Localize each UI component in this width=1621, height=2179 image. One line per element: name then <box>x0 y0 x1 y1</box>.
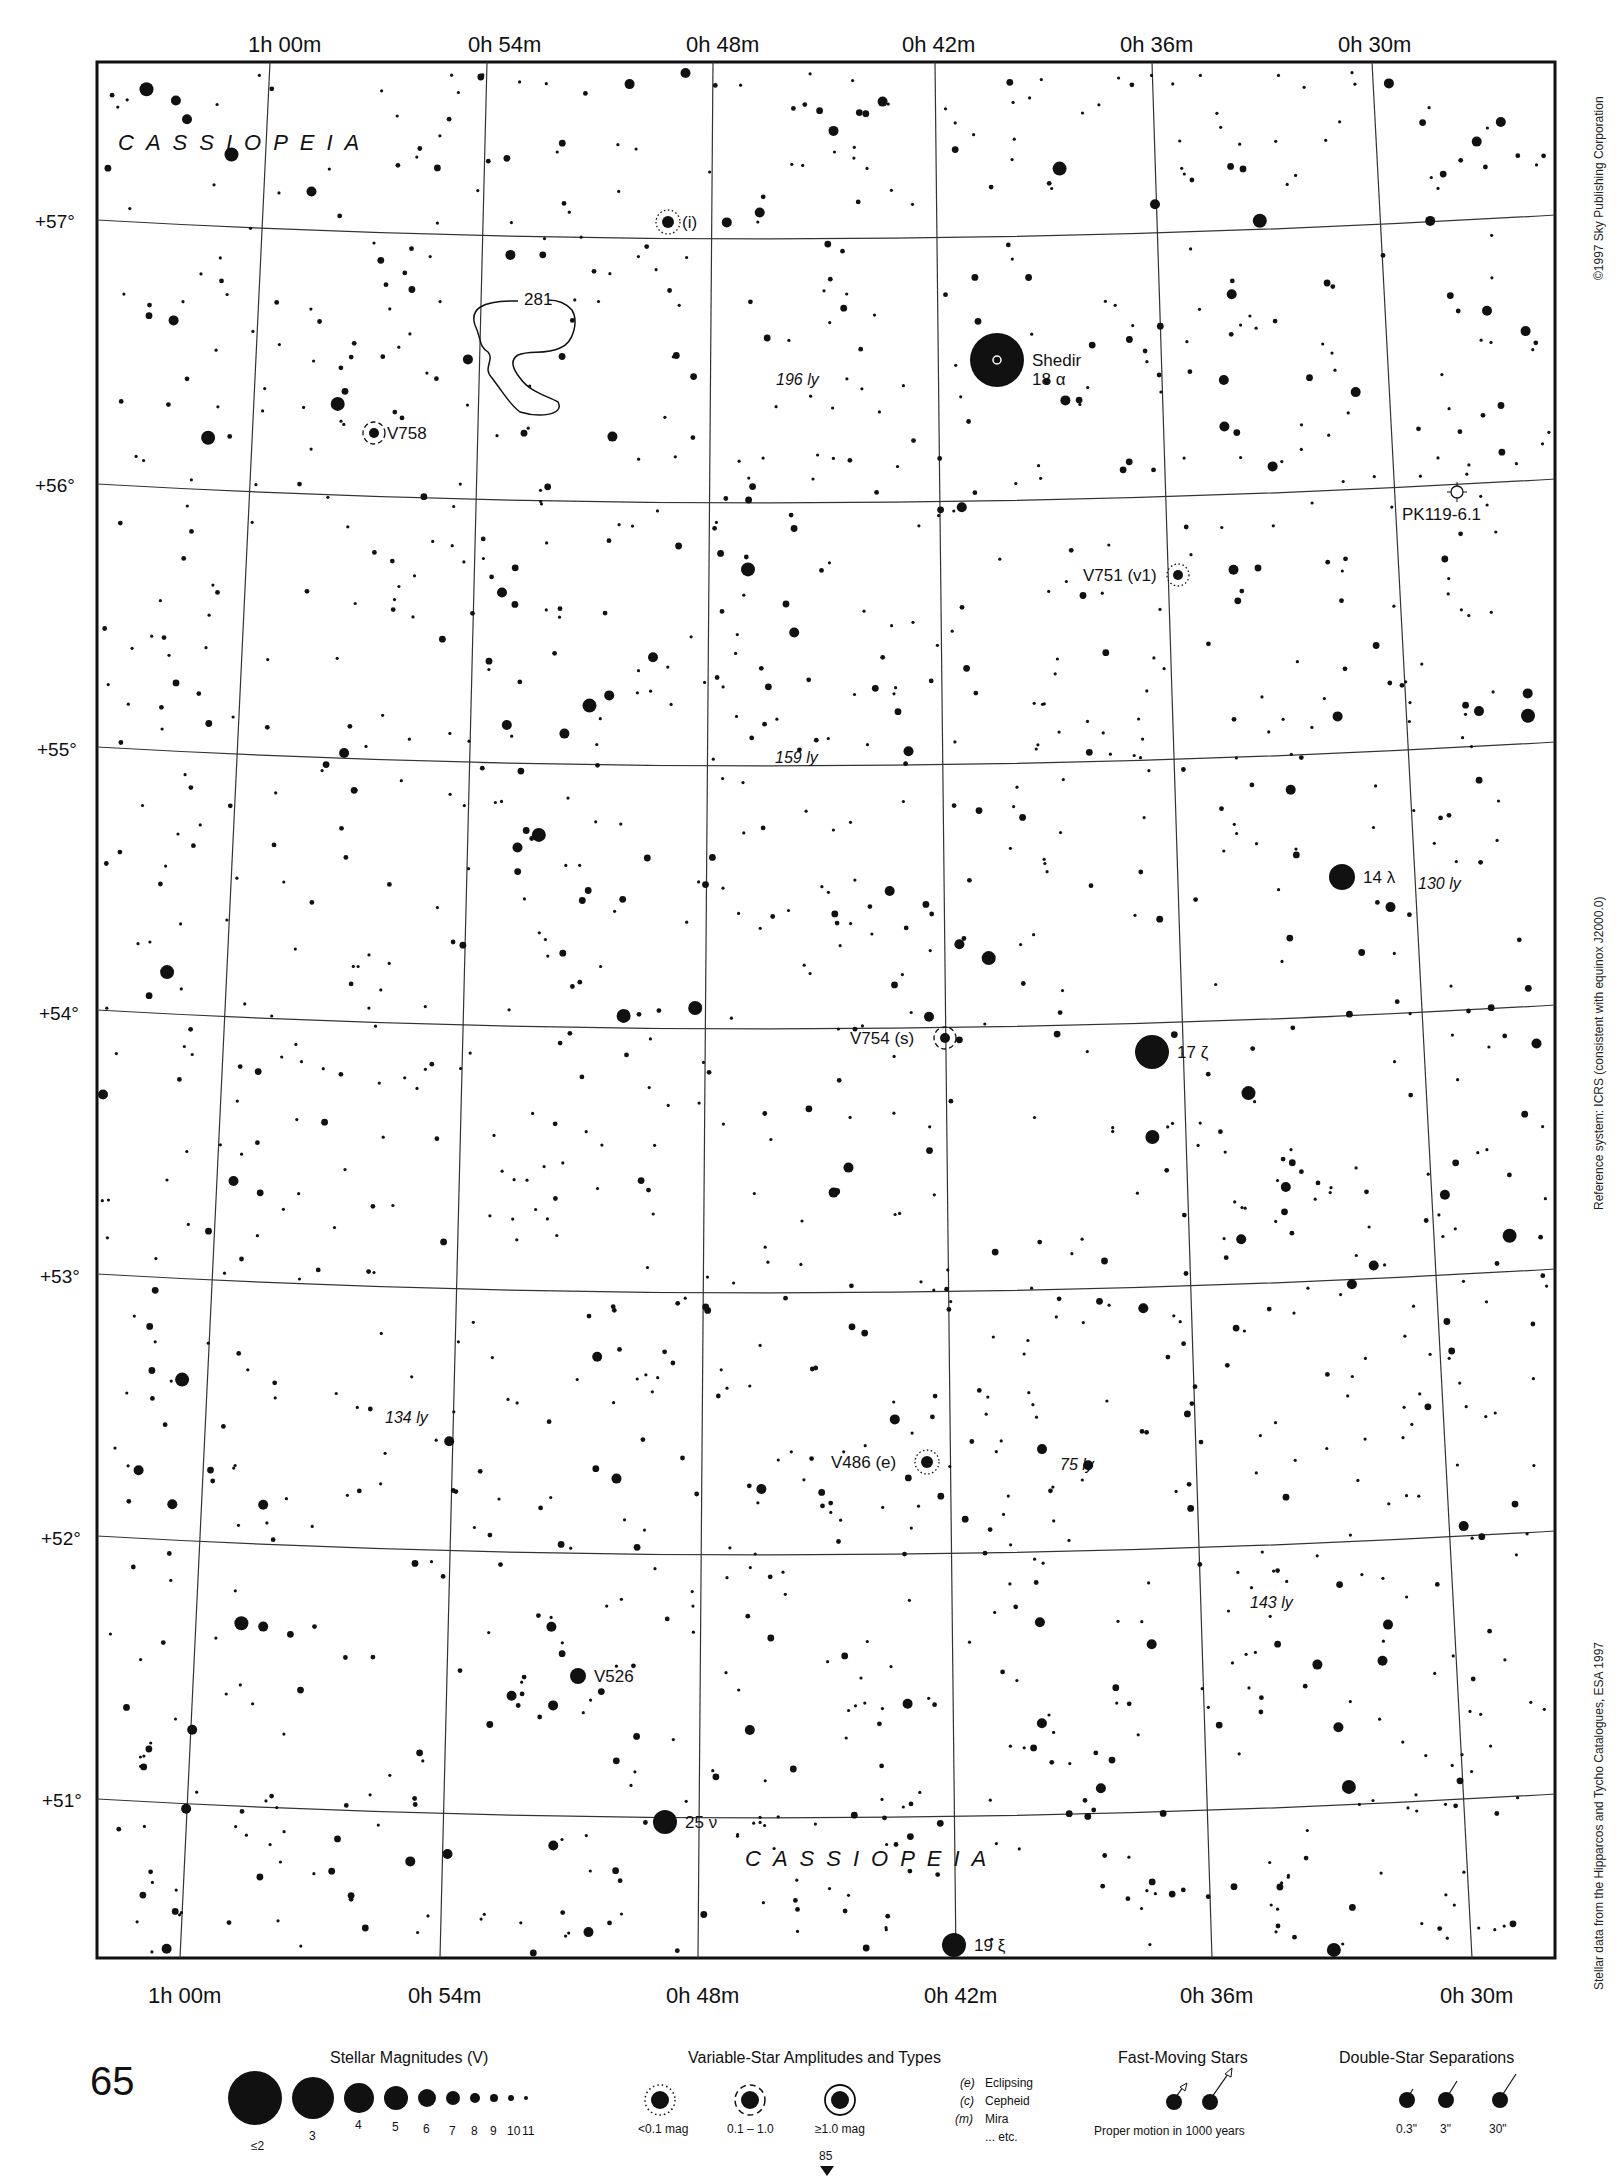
ra-label: 0h 42m <box>902 32 975 57</box>
distance-label: 196 ly <box>776 371 820 388</box>
amplitude-label: <0.1 mag <box>638 2122 688 2136</box>
variable-large-amplitude-icon <box>825 2085 855 2115</box>
type-name: Mira <box>985 2112 1009 2126</box>
variable-medium-amplitude-icon <box>735 2085 765 2115</box>
map-frame <box>97 62 1555 1958</box>
dec-label: +51° <box>42 1790 82 1811</box>
variable-small-amplitude-icon <box>645 2085 675 2115</box>
magnitude-label: 9 <box>490 2124 497 2138</box>
labeled-objects: Shedir18 α17 ζ14 λ25 ν19 ξV758V751 (v1)V… <box>363 210 1481 1957</box>
double-30-icon <box>1492 2074 1516 2108</box>
distance-label: 75 ly <box>1060 1456 1095 1473</box>
magnitude-label: 6 <box>423 2122 430 2136</box>
magnitude-label: 8 <box>471 2124 478 2138</box>
ra-label: 0h 30m <box>1440 1983 1513 2008</box>
magnitude-swatch: 8 <box>470 2093 480 2138</box>
ra-label: 0h 54m <box>468 32 541 57</box>
ra-label: 1h 00m <box>248 32 321 57</box>
dec-label: +57° <box>35 211 75 232</box>
ra-label: 0h 30m <box>1338 32 1411 57</box>
page-number: 65 <box>90 2059 135 2103</box>
object-label: PK119-6.1 <box>1402 505 1481 524</box>
legend-title: Variable-Star Amplitudes and Types <box>688 2049 941 2066</box>
magnitude-swatch: 3 <box>292 2077 334 2143</box>
magnitude-swatch: 6 <box>418 2089 436 2136</box>
magnitude-swatch: 11 <box>522 2096 535 2138</box>
data-source-note: Stellar data from the Hipparcos and Tych… <box>1592 1642 1606 1990</box>
fast-moving-long-icon <box>1202 2068 1232 2110</box>
labeled-object: V486 (e) <box>831 1450 939 1474</box>
object-label: V754 (s) <box>850 1029 914 1048</box>
labeled-object: V751 (v1) <box>1083 564 1189 586</box>
copyright-note: ©1997 Sky Publishing Corporation <box>1592 96 1606 280</box>
object-label: V526 <box>594 1667 634 1686</box>
object-label: V751 (v1) <box>1083 566 1157 585</box>
legend-variables: Variable-Star Amplitudes and Types <0.1 … <box>638 2049 1033 2176</box>
labeled-object: 25 ν <box>653 1810 717 1834</box>
type-name: Cepheid <box>985 2094 1030 2108</box>
object-label: (i) <box>682 213 697 232</box>
ra-label: 0h 48m <box>686 32 759 57</box>
magnitude-label: 7 <box>449 2124 456 2138</box>
dec-axis: +57° +56° +55° +54° +53° +52° +51° <box>35 211 82 1811</box>
object-label: 281 <box>524 290 552 309</box>
legend-fast-moving: Fast-Moving Stars Proper motion in 1000 … <box>1094 2049 1248 2138</box>
object-label: 19 ξ <box>974 1936 1006 1955</box>
labeled-object: 17 ζ <box>1135 1035 1209 1069</box>
magnitude-label: 5 <box>392 2120 399 2134</box>
labeled-object: PK119-6.1 <box>1402 482 1481 524</box>
type-name: ... etc. <box>985 2130 1018 2144</box>
labeled-object: V758 <box>363 422 427 444</box>
labeled-object: V526 <box>570 1667 634 1686</box>
labeled-object: Shedir18 α <box>970 333 1081 389</box>
magnitude-label: ≤2 <box>251 2139 265 2153</box>
magnitude-label: 3 <box>309 2129 316 2143</box>
ra-axis-top: 1h 00m 0h 54m 0h 48m 0h 42m 0h 36m 0h 30… <box>248 32 1411 57</box>
ra-label: 0h 48m <box>666 1983 739 2008</box>
amplitude-label: 0.1 – 1.0 <box>727 2122 774 2136</box>
labeled-object: (i) <box>656 210 697 234</box>
reference-note: Reference system: ICRS (consistent with … <box>1592 897 1606 1210</box>
object-label: Shedir <box>1032 351 1081 370</box>
amplitude-label: ≥1.0 mag <box>815 2122 865 2136</box>
object-label: 14 λ <box>1363 868 1396 887</box>
ra-label: 0h 36m <box>1120 32 1193 57</box>
magnitude-label: 11 <box>522 2124 535 2138</box>
distance-label: 159 ly <box>775 749 819 766</box>
double-0-3-icon <box>1399 2089 1415 2108</box>
next-page-ref[interactable]: 85 <box>819 2149 833 2163</box>
coordinate-grid <box>97 62 1555 1958</box>
ra-label: 0h 54m <box>408 1983 481 2008</box>
ra-label: 1h 00m <box>148 1983 221 2008</box>
dec-label: +56° <box>35 475 75 496</box>
star-chart: 1h 00m 0h 54m 0h 48m 0h 42m 0h 36m 0h 30… <box>0 0 1621 2179</box>
type-name: Eclipsing <box>985 2076 1033 2090</box>
legend-title: Double-Star Separations <box>1339 2049 1514 2066</box>
magnitude-swatch: 10 <box>507 2095 521 2138</box>
fast-moving-short-icon <box>1166 2083 1187 2110</box>
ra-label: 0h 42m <box>924 1983 997 2008</box>
magnitude-label: 4 <box>355 2118 362 2132</box>
separation-label: 3" <box>1440 2122 1451 2136</box>
constellation-label: CASSIOPEIA <box>745 1846 998 1871</box>
legend-doubles: Double-Star Separations 0.3" 3" 30" <box>1339 2049 1516 2136</box>
double-3-icon <box>1438 2081 1457 2108</box>
magnitude-label: 10 <box>507 2124 521 2138</box>
distance-label: 130 ly <box>1418 875 1462 892</box>
magnitude-swatch: 4 <box>344 2083 374 2132</box>
magnitude-swatch: 5 <box>384 2086 408 2134</box>
labeled-object: 14 λ <box>1329 864 1396 890</box>
type-code: (e) <box>960 2076 975 2090</box>
object-label: 17 ζ <box>1177 1043 1209 1062</box>
separation-label: 30" <box>1489 2122 1507 2136</box>
labeled-object: 281 <box>524 290 552 309</box>
object-label: V486 (e) <box>831 1453 896 1472</box>
field-stars <box>98 68 1551 1957</box>
magnitude-swatch: 9 <box>490 2094 498 2138</box>
object-label: 25 ν <box>685 1813 717 1832</box>
dec-label: +53° <box>40 1266 80 1287</box>
next-page-arrow-icon[interactable] <box>820 2166 834 2176</box>
object-label: V758 <box>387 424 427 443</box>
constellation-label: CASSIOPEIA <box>118 130 371 155</box>
ra-label: 0h 36m <box>1180 1983 1253 2008</box>
